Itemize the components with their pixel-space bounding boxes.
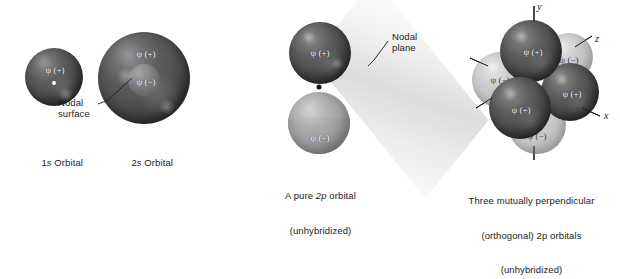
axes-tips xyxy=(440,0,620,175)
axis-label-y: y xyxy=(537,1,541,12)
caption-three-2p-line3: (unhybridized) xyxy=(443,264,620,276)
caption-three-2p-line1: Three mutually perpendicular xyxy=(443,195,620,207)
caption-three-2p-line2: (orthogonal) 2p orbitals xyxy=(443,230,620,242)
axis-label-z: z xyxy=(595,33,599,44)
caption-three-2p-orbitals: Three mutually perpendicular (orthogonal… xyxy=(443,172,620,279)
caption-2p-line2: (unhybridized) xyxy=(258,225,383,237)
axis-label-x: x xyxy=(604,110,608,121)
